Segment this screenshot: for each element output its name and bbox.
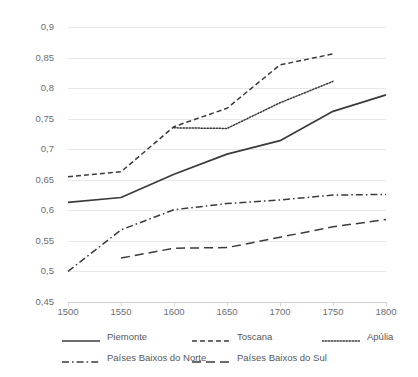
legend-item-paises-baixos-do-sul[interactable]: Países Baixos do Sul <box>192 347 327 368</box>
legend-swatch-dotted-icon <box>322 332 360 342</box>
chart-legend: Piemonte Toscana Apúlia Países Baixos do… <box>0 326 418 368</box>
legend-item-piemonte[interactable]: Piemonte <box>62 326 147 347</box>
legend-item-toscana[interactable]: Toscana <box>192 326 272 347</box>
legend-row-1: Piemonte Toscana Apúlia <box>0 326 418 347</box>
line-chart: 0,450,50,550,60,650,70,750,80,850,9 1500… <box>0 0 418 377</box>
legend-item-paises-baixos-do-norte[interactable]: Países Baixos do Norte <box>62 347 206 368</box>
series-line <box>174 81 333 128</box>
legend-label: Toscana <box>237 332 272 342</box>
legend-swatch-dash-dot-icon <box>62 353 100 363</box>
legend-swatch-solid-icon <box>62 332 100 342</box>
legend-item-apulia[interactable]: Apúlia <box>322 326 393 347</box>
series-line <box>68 194 386 271</box>
legend-label: Países Baixos do Sul <box>237 353 327 363</box>
legend-row-2: Países Baixos do Norte Países Baixos do … <box>0 347 418 368</box>
legend-swatch-long-dash-icon <box>192 353 230 363</box>
legend-label: Apúlia <box>367 332 393 342</box>
legend-label: Piemonte <box>107 332 147 342</box>
legend-swatch-dashed-icon <box>192 332 230 342</box>
series-line <box>68 95 386 203</box>
series-layer <box>0 0 418 377</box>
series-line <box>121 220 386 259</box>
series-line <box>68 54 333 177</box>
